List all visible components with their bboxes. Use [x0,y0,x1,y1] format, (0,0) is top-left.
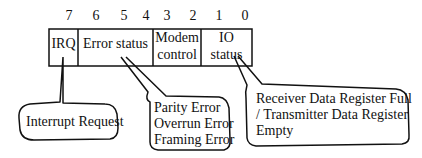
bit-number-6: 6 [90,8,102,24]
bit-number-1: 1 [213,8,225,24]
bit-number-7: 7 [63,8,75,24]
field-io-label-line2: status [201,47,252,62]
callout-io-line3: Empty [256,123,293,138]
callout-error-line2: Overrun Error [154,116,234,131]
field-modem-label-line1: Modem [153,30,201,45]
callout-irq-text: Interrupt Request [26,114,124,129]
callout-error-line3: Framing Error [154,132,234,147]
bit-number-5: 5 [118,8,130,24]
field-modem-label-line2: control [153,47,201,62]
callout-io-line1: Receiver Data Register Full [256,91,412,106]
callout-io-line2: / Transmitter Data Register [256,107,408,122]
callout-error-line1: Parity Error [154,100,220,115]
bit-number-3: 3 [161,8,173,24]
bit-number-4: 4 [140,8,152,24]
field-irq-label: IRQ [49,36,78,51]
field-error-status-label: Error status [78,36,153,51]
bit-number-0: 0 [239,8,251,24]
bit-number-2: 2 [187,8,199,24]
field-io-label-line1: IO [201,30,252,45]
